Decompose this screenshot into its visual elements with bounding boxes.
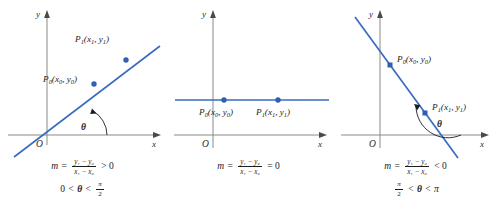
angle-arc-theta bbox=[90, 109, 107, 136]
point-P0 bbox=[91, 81, 96, 86]
y-axis-label: y bbox=[368, 9, 373, 19]
plot-positive-slope: y x O θ P0(x0, y0) P1(x1, y1) bbox=[0, 0, 166, 160]
slope-figure: y x O θ P0(x0, y0) P1(x1, y1) m bbox=[0, 0, 499, 216]
point-label-P0: P0(x0, y0) bbox=[396, 54, 431, 65]
theta-label-positive: θ bbox=[81, 122, 86, 132]
equation-negative-slope: m = y₁ − y₀ x₁ − x₀ < 0 bbox=[333, 158, 499, 177]
caption-positive-slope: m = y₁ − y₀ x₁ − x₀ > 0 0 < θ < π 2 bbox=[0, 158, 166, 199]
pi-over-two: π 2 bbox=[395, 180, 403, 198]
x-axis bbox=[8, 132, 161, 138]
y-axis bbox=[210, 10, 216, 148]
equation-positive-slope: m = y₁ − y₀ x₁ − x₀ > 0 bbox=[0, 158, 166, 177]
x-axis bbox=[174, 132, 327, 138]
slope-fraction: y₁ − y₀ x₁ − x₀ bbox=[405, 158, 429, 177]
point-label-P1: P1(x1, y1) bbox=[74, 34, 109, 45]
pi-over-two: π 2 bbox=[96, 180, 104, 198]
point-label-P0: P0(x0, y0) bbox=[198, 107, 233, 118]
origin-label: O bbox=[36, 139, 43, 149]
angle-condition-negative: π 2 < θ < π bbox=[333, 181, 499, 199]
x-axis-label: x bbox=[317, 139, 322, 149]
slope-fraction: y₁ − y₀ x₁ − x₀ bbox=[72, 158, 96, 177]
point-P1 bbox=[123, 57, 128, 62]
x-axis bbox=[341, 132, 489, 138]
point-P0 bbox=[388, 63, 393, 68]
line-positive-slope bbox=[14, 46, 160, 157]
x-axis-label: x bbox=[479, 139, 484, 149]
y-axis-label: y bbox=[201, 9, 206, 19]
y-axis-label: y bbox=[35, 9, 40, 19]
point-P1 bbox=[275, 97, 280, 102]
origin-label: O bbox=[202, 139, 209, 149]
plot-negative-slope: y x O θ P0(x0, y0) P1(x1, y1) bbox=[333, 0, 499, 160]
point-label-P1: P1(x1, y1) bbox=[431, 102, 466, 113]
point-label-P1: P1(x1, y1) bbox=[255, 107, 290, 118]
panel-negative-slope: y x O θ P0(x0, y0) P1(x1, y1) m = bbox=[333, 0, 499, 216]
point-label-P0: P0(x0, y0) bbox=[42, 74, 77, 85]
origin-label: O bbox=[369, 139, 376, 149]
equation-zero-slope: m = y₁ − y₀ x₁ − x₀ = 0 bbox=[166, 158, 332, 177]
angle-condition-positive: 0 < θ < π 2 bbox=[0, 181, 166, 199]
point-P1 bbox=[423, 111, 428, 116]
caption-negative-slope: m = y₁ − y₀ x₁ − x₀ < 0 π 2 < θ < π bbox=[333, 158, 499, 199]
caption-zero-slope: m = y₁ − y₀ x₁ − x₀ = 0 bbox=[166, 158, 332, 177]
theta-label-negative: θ bbox=[437, 119, 442, 129]
panel-positive-slope: y x O θ P0(x0, y0) P1(x1, y1) m bbox=[0, 0, 166, 216]
x-axis-label: x bbox=[151, 139, 156, 149]
point-P0 bbox=[221, 97, 226, 102]
panel-zero-slope: y x O P0(x0, y0) P1(x1, y1) m = y₁ − y₀ … bbox=[166, 0, 332, 216]
slope-fraction: y₁ − y₀ x₁ − x₀ bbox=[238, 158, 262, 177]
y-axis bbox=[377, 10, 383, 148]
plot-zero-slope: y x O P0(x0, y0) P1(x1, y1) bbox=[166, 0, 332, 160]
